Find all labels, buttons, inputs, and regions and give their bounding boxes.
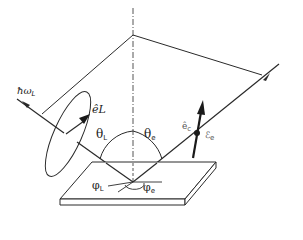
phi-e-label: φe	[143, 182, 155, 195]
sample-plate-front	[60, 199, 185, 205]
phi-L-label: φL	[92, 180, 104, 193]
laser-polarization-label: êL	[92, 104, 106, 115]
theta-L-label: θL	[96, 128, 107, 142]
electron-polarization-label: êc	[182, 122, 191, 133]
electron-energy-label: ℰe	[205, 131, 214, 142]
electron-point	[194, 130, 200, 136]
photon-energy-label: ħωL	[17, 86, 36, 98]
photon-energy-symbol: ħω	[17, 85, 32, 96]
polarization-vector	[66, 121, 84, 134]
incoming-photon-beam	[17, 99, 64, 133]
laser-polarization-subscript: L	[99, 103, 106, 116]
theta-e-subscript: e	[151, 134, 155, 142]
phi-e-subscript: e	[151, 187, 155, 195]
phi-e-symbol: φ	[143, 181, 151, 194]
phi-L-subscript: L	[100, 185, 104, 193]
theta-L-subscript: L	[103, 134, 107, 142]
electron-polarization-arrow-icon	[197, 100, 205, 115]
theta-e-label: θe	[144, 128, 156, 142]
electron-polarization-subscript: c	[187, 125, 191, 133]
photon-energy-subscript: L	[32, 90, 36, 98]
detection-plane-edge	[133, 35, 262, 75]
phi-L-symbol: φ	[92, 179, 100, 192]
electron-energy-subscript: e	[210, 134, 214, 142]
incidence-plane-edge	[42, 35, 133, 114]
